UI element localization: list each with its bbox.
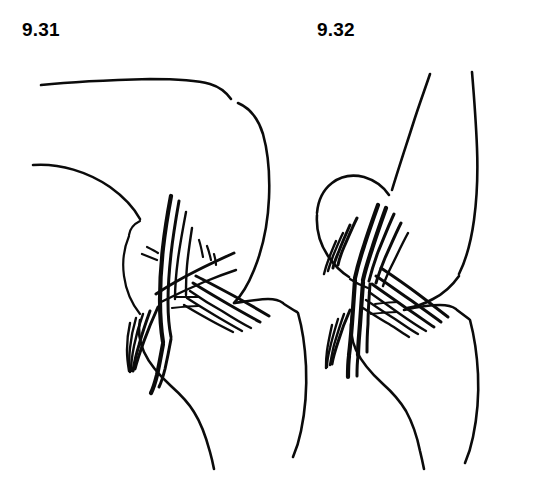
figure-label-931: 9.31 — [22, 20, 60, 39]
line-drawing-canvas — [0, 0, 552, 500]
knee-flexed-icon — [317, 72, 478, 469]
knee-extended-icon — [33, 79, 306, 469]
figure-label-932: 9.32 — [317, 20, 355, 39]
figure-sheet: 9.31 9.32 — [0, 0, 552, 500]
